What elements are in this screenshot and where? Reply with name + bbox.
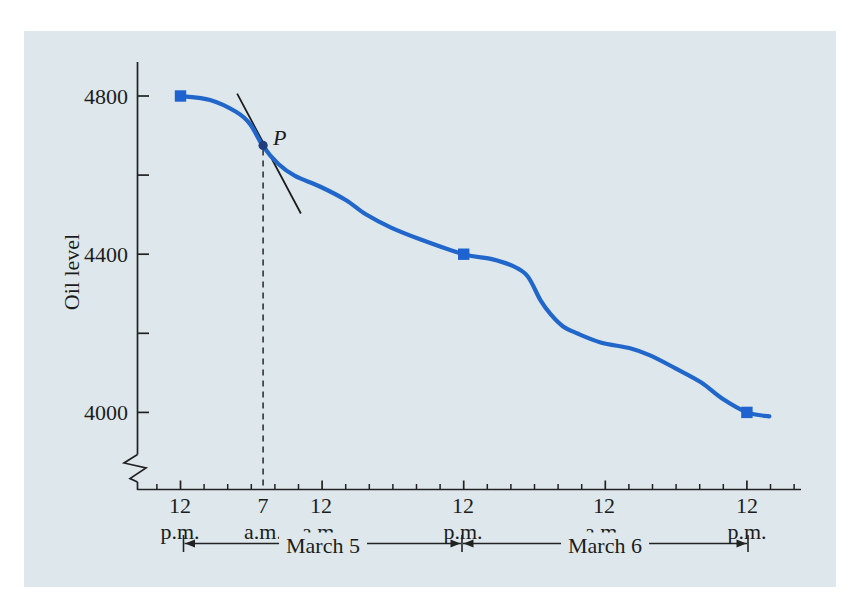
x-tick-period-3: p.m.	[433, 519, 493, 544]
y-axis-break-icon	[124, 455, 146, 483]
x-tick-period-5: p.m.	[717, 519, 777, 544]
x-tick-period-0: p.m.	[150, 519, 210, 544]
x-tick-time-3: 12	[441, 493, 485, 518]
y-tick-label-4000: 4000	[66, 400, 128, 425]
axes	[124, 62, 801, 490]
date-span-label-march-6: March 6	[561, 533, 649, 558]
x-tick-time-1: 7	[241, 493, 285, 518]
oil-level-curve	[181, 96, 770, 416]
date-span-label-march-5: March 5	[279, 533, 367, 558]
axis-ticks	[138, 96, 794, 490]
x-tick-time-2: 12	[299, 493, 343, 518]
y-tick-label-4800: 4800	[66, 84, 128, 109]
x-tick-time-0: 12	[158, 493, 202, 518]
x-tick-time-4: 12	[582, 493, 626, 518]
x-tick-time-5: 12	[725, 493, 769, 518]
page: { "figure": { "panel_color": "#dee8ec", …	[0, 0, 861, 611]
point-P-label: P	[273, 125, 286, 150]
y-axis-title: Oil level	[59, 234, 84, 310]
point-P-dot	[259, 141, 268, 150]
